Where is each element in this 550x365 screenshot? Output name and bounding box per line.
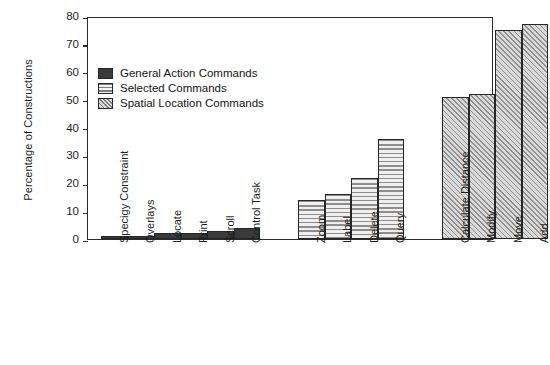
y-tick-label: 20	[66, 177, 79, 189]
x-axis-label: Query	[394, 213, 406, 243]
legend-swatch-horizontal-stripes	[98, 83, 113, 94]
y-tick-label: 70	[66, 38, 79, 50]
y-tick-mark	[83, 129, 88, 130]
x-axis-label: Label	[341, 216, 353, 243]
x-axis-label: Print	[197, 220, 209, 243]
bar	[522, 24, 549, 239]
y-tick-mark	[83, 241, 88, 242]
y-tick-label: 0	[73, 233, 79, 245]
y-tick-mark	[83, 45, 88, 46]
x-axis-label: Move	[512, 216, 524, 243]
bar	[495, 30, 522, 239]
y-tick-label: 30	[66, 149, 79, 161]
y-tick-mark	[83, 185, 88, 186]
x-axis-labels: Specigy ConstraintOverlaysLocatePrintScr…	[87, 243, 493, 363]
x-axis-label: Locate	[171, 210, 183, 243]
y-tick-mark	[83, 18, 88, 19]
x-axis-label: Add	[538, 223, 550, 243]
y-tick-mark	[83, 101, 88, 102]
y-tick-label: 80	[66, 10, 79, 22]
legend-swatch-solid	[98, 68, 113, 79]
x-axis-label: Delete	[368, 211, 380, 243]
legend-label: Selected Commands	[120, 82, 227, 94]
x-axis-label: Specigy Constraint	[118, 151, 130, 243]
legend-item: General Action Commands	[98, 66, 313, 80]
x-axis-label: Scroll	[224, 215, 236, 243]
x-axis-label: Modify	[485, 211, 497, 243]
y-tick-label: 40	[66, 122, 79, 134]
y-tick-mark	[83, 157, 88, 158]
y-tick-mark	[83, 73, 88, 74]
chart-legend: General Action CommandsSelected Commands…	[98, 66, 313, 111]
y-tick-label: 10	[66, 205, 79, 217]
x-axis-label: Zoom	[315, 215, 327, 243]
y-axis-title: Percentage of Constructions	[22, 18, 38, 242]
legend-label: Spatial Location Commands	[120, 97, 264, 109]
y-tick-label: 60	[66, 66, 79, 78]
y-tick-label: 50	[66, 94, 79, 106]
legend-item: Spatial Location Commands	[98, 96, 313, 110]
x-axis-label: Calculate Distance	[459, 151, 471, 243]
y-tick-mark	[83, 213, 88, 214]
x-axis-label: Overlays	[144, 200, 156, 243]
legend-item: Selected Commands	[98, 81, 313, 95]
legend-swatch-diagonal-hatch	[98, 98, 113, 109]
legend-label: General Action Commands	[120, 67, 257, 79]
x-axis-label: Control Task	[250, 182, 262, 243]
